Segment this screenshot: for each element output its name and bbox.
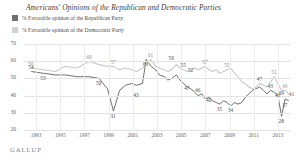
data-point-label: 43 <box>268 83 273 89</box>
data-point-label: 56 <box>28 61 33 67</box>
y-axis-tick-label: 50 <box>2 74 16 80</box>
data-point-label: 43 <box>282 83 287 89</box>
data-point-label: 55 <box>181 62 186 68</box>
data-point-label: 28 <box>279 118 284 124</box>
gridline-vertical <box>157 44 158 130</box>
legend-item-democratic: % Favorable opinion of the Democratic Pa… <box>12 25 124 34</box>
gridline-vertical <box>36 44 37 130</box>
data-point-label: 47 <box>184 85 189 91</box>
x-axis-tick-label: 1999 <box>98 132 120 138</box>
y-axis-tick-label: 30 <box>2 109 16 115</box>
gridline-vertical <box>181 44 182 130</box>
page-title: Americans' Opinions of the Republican an… <box>26 3 221 12</box>
series-line <box>31 59 289 93</box>
source-attribution: GALLUP <box>10 146 42 153</box>
y-axis-tick-label: 70 <box>2 40 16 46</box>
data-point-label: 52 <box>188 67 193 73</box>
legend-label-republican: % Favorable opinion of the Republican Pa… <box>22 15 123 21</box>
data-point-label: 50 <box>96 80 101 86</box>
data-point-label: 39 <box>279 90 284 96</box>
data-point-label: 43 <box>133 92 138 98</box>
y-axis-tick-label: 40 <box>2 92 16 98</box>
data-point-label: 37 <box>282 102 287 108</box>
data-point-label: 46 <box>195 87 200 93</box>
chart-legend: % Favorable opinion of the Republican Pa… <box>12 13 124 37</box>
data-point-label: 60 <box>86 54 91 60</box>
chart-root: Americans' Opinions of the Republican an… <box>0 0 296 163</box>
data-point-label: 41 <box>289 91 294 97</box>
legend-label-democratic: % Favorable opinion of the Democratic Pa… <box>22 27 124 33</box>
x-axis-tick-label: 1997 <box>73 132 95 138</box>
data-point-label: 55 <box>224 62 229 68</box>
data-point-label: 57 <box>110 59 115 65</box>
x-axis-tick-label: 2013 <box>267 132 289 138</box>
x-axis-tick-label: 2005 <box>170 132 192 138</box>
x-axis-tick-label: 1995 <box>49 132 71 138</box>
legend-swatch-icon <box>12 27 18 33</box>
gridline-vertical <box>205 44 206 130</box>
data-point-label: 59 <box>169 55 174 61</box>
data-point-label: 47 <box>257 76 262 82</box>
data-point-label: 31 <box>110 113 115 119</box>
x-axis-tick-label: 2003 <box>146 132 168 138</box>
x-axis-tick-label: 2007 <box>194 132 216 138</box>
plot-area: 7060504030201993199519971999200120032005… <box>24 44 290 130</box>
gridline-vertical <box>230 44 231 130</box>
x-axis-tick-label: 2011 <box>243 132 265 138</box>
data-point-label: 51 <box>271 69 276 75</box>
legend-swatch-icon <box>12 15 18 21</box>
gridline <box>24 130 290 131</box>
gridline-vertical <box>109 44 110 130</box>
data-point-label: 40 <box>206 97 211 103</box>
data-point-label: 61 <box>143 61 148 67</box>
gridline-vertical <box>60 44 61 130</box>
data-point-label: 61 <box>148 52 153 58</box>
legend-item-republican: % Favorable opinion of the Republican Pa… <box>12 13 124 22</box>
y-axis-tick-label: 20 <box>2 126 16 132</box>
data-point-label: 57 <box>202 59 207 65</box>
data-point-label: 35 <box>217 106 222 112</box>
y-axis-tick-label: 60 <box>2 57 16 63</box>
data-point-label: 34 <box>228 107 233 113</box>
data-point-label: 53 <box>40 75 45 81</box>
x-axis-tick-label: 2001 <box>122 132 144 138</box>
x-axis-tick-label: 1993 <box>25 132 47 138</box>
gridline-vertical <box>133 44 134 130</box>
x-axis-tick-label: 2009 <box>219 132 241 138</box>
gridline-vertical <box>254 44 255 130</box>
